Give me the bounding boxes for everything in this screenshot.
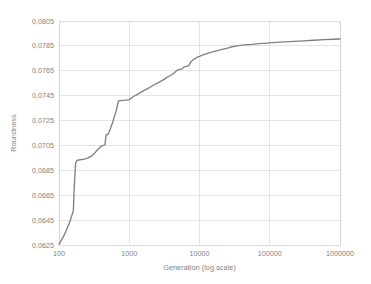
- vertical-gridlines: [59, 21, 340, 245]
- x-axis-tick-labels: 1001000100001000001000000: [53, 249, 354, 258]
- roundness-vs-generation-line-chart: 0,06250,06450,06650,06850,07050,07250,07…: [0, 0, 371, 284]
- x-axis-tick-label: 1000: [121, 249, 137, 258]
- y-axis-tick-label: 0,0685: [32, 166, 54, 175]
- y-axis-tick-label: 0,0705: [32, 141, 54, 150]
- x-axis-tick-label: 100: [53, 249, 65, 258]
- x-axis-tick-label: 10000: [190, 249, 210, 258]
- y-axis-tick-label: 0,0625: [32, 241, 54, 250]
- chart-container: 0,06250,06450,06650,06850,07050,07250,07…: [0, 0, 371, 284]
- y-axis-tick-label: 0,0665: [32, 191, 54, 200]
- y-axis-tick-label: 0,0805: [32, 17, 54, 26]
- x-axis-title: Generation (log scale): [163, 263, 236, 272]
- y-axis-tick-label: 0,0725: [32, 116, 54, 125]
- x-axis-tick-label: 1000000: [326, 249, 354, 258]
- y-axis-tick-label: 0,0785: [32, 41, 54, 50]
- y-axis-tick-label: 0,0745: [32, 91, 54, 100]
- y-axis-title: Roundness: [9, 114, 18, 152]
- x-axis-tick-label: 100000: [258, 249, 282, 258]
- y-axis-tick-label: 0,0645: [32, 216, 54, 225]
- y-axis-tick-labels: 0,06250,06450,06650,06850,07050,07250,07…: [32, 17, 54, 250]
- y-axis-tick-label: 0,0765: [32, 66, 54, 75]
